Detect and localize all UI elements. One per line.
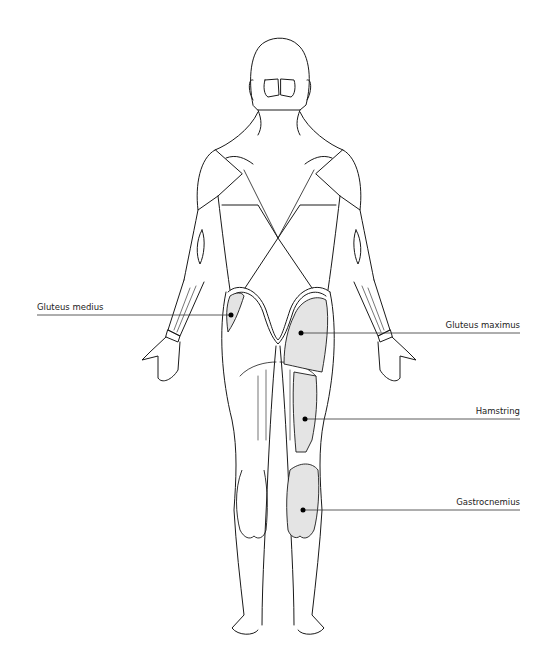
dot-gluteus-medius [229, 313, 234, 318]
spine-v [244, 170, 314, 238]
dot-hamstring [303, 417, 308, 422]
label-gluteus-medius: Gluteus medius [37, 302, 104, 312]
label-hamstring: Hamstring [476, 406, 520, 416]
forearm-right [354, 280, 390, 336]
wrist-band-right [378, 330, 392, 342]
forearm-left [168, 280, 204, 336]
occipital-patch-right [281, 79, 295, 97]
deltoid-left [197, 150, 242, 210]
hamstring-lines [258, 370, 298, 440]
other-calf [237, 470, 268, 538]
gluteus-medius-region [227, 293, 244, 332]
leg-left-outer [222, 292, 258, 634]
gastrocnemius-region [287, 464, 319, 538]
occipital-patch-left [264, 79, 279, 97]
upper-arm-left [184, 210, 198, 280]
dot-gastrocnemius [301, 508, 306, 513]
upper-arm-right [360, 210, 374, 280]
muscle-diagram [0, 0, 552, 666]
body-outline [142, 38, 416, 634]
lat-x-right [278, 238, 312, 288]
highlighted-muscles [227, 293, 328, 538]
hand-right [378, 337, 416, 381]
hamstring-region [293, 372, 317, 452]
dot-gluteus-maximus [299, 331, 304, 336]
torso-left [218, 196, 230, 290]
trapezius-right [300, 112, 343, 150]
leg-left-inner [262, 346, 276, 625]
lat-x-left [245, 238, 278, 288]
neck-right [297, 110, 300, 135]
label-gluteus-maximus: Gluteus maximus [446, 320, 520, 330]
leader-lines [37, 315, 520, 510]
trapezius-left [215, 112, 258, 150]
biceps-oval-right [354, 230, 361, 264]
back-upper [222, 205, 336, 238]
deltoid-right [316, 150, 361, 210]
torso-right [328, 196, 340, 290]
wrist-band-left [166, 330, 180, 342]
neck-left [258, 110, 261, 135]
hand-left [142, 337, 180, 381]
label-gastrocnemius: Gastrocnemius [456, 497, 520, 507]
head [251, 38, 310, 110]
biceps-oval-left [197, 230, 204, 264]
